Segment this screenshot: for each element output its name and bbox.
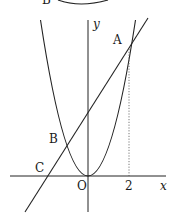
y-axis-label: y: [92, 17, 100, 31]
x-tick-label-2: 2: [125, 179, 133, 193]
top-fragment-label: B: [42, 0, 51, 7]
point-label-B: B: [49, 132, 58, 146]
graph-svg: B x y O 2 A B C: [0, 0, 175, 214]
point-label-A: A: [112, 33, 122, 47]
graph-figure: B x y O 2 A B C: [0, 0, 175, 214]
top-arc-fragment: [58, 0, 108, 4]
point-label-C: C: [35, 161, 44, 175]
origin-label: O: [77, 179, 87, 193]
x-axis-label: x: [160, 179, 167, 193]
